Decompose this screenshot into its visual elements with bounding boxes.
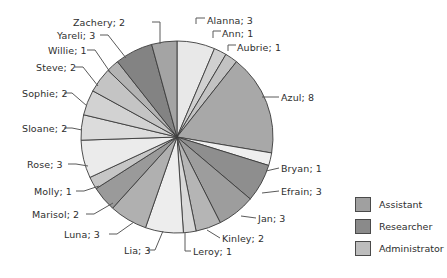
slice-label: Jan; 3 [258,213,286,224]
leader-line [152,22,160,44]
slice-label: Steve; 2 [36,62,76,73]
slice-label: Yareli; 3 [57,30,95,41]
slice-label: Efrain; 3 [281,186,322,197]
slice-label: Molly; 1 [34,186,72,197]
chart-legend: AssistantResearcherAdministrator [355,194,444,260]
slice-label: Kinley; 2 [222,233,264,244]
leader-line [185,233,191,251]
slice-label: Sophie; 2 [22,88,68,99]
leader-line [109,222,134,234]
leader-line [241,216,256,218]
slice-label: Ann; 1 [222,28,253,39]
slice-label: Azul; 8 [281,92,314,103]
pie-slices-group [81,41,273,233]
leader-line [87,50,110,72]
slice-label: Aubrie; 1 [237,42,281,53]
slice-label: Luna; 3 [64,229,100,240]
leader-line [100,35,126,58]
legend-item[interactable]: Administrator [355,238,444,258]
leader-line [228,45,236,51]
slice-label: Willie; 1 [48,45,87,56]
leader-line [75,67,98,86]
legend-label: Assistant [379,199,422,210]
leader-line [196,18,205,24]
slice-label: Sloane; 2 [22,123,67,134]
slice-label: Alanna; 3 [207,15,253,26]
slice-label: Zachery; 2 [73,17,125,28]
legend-swatch [355,219,371,234]
slice-label: Bryan; 1 [281,163,322,174]
slice-label: Leroy; 1 [193,246,232,257]
leader-line [213,31,221,38]
legend-label: Researcher [379,221,432,232]
legend-label: Administrator [379,243,444,254]
leader-line [262,191,279,193]
pie-chart-figure: Alanna; 3Ann; 1Aubrie; 1Azul; 8Bryan; 1E… [0,0,447,278]
legend-item[interactable]: Researcher [355,216,444,236]
leader-line [207,230,220,238]
legend-swatch [355,197,371,212]
slice-label: Lia; 3 [124,245,151,256]
slice-label: Marisol; 2 [32,209,79,220]
legend-swatch [355,241,371,256]
legend-item[interactable]: Assistant [355,194,444,214]
slice-label: Rose; 3 [27,159,63,170]
